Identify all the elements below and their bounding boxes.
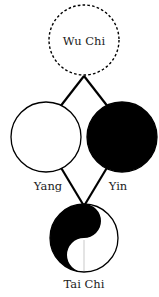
yin-circle bbox=[87, 102, 157, 172]
yang-label: Yang bbox=[33, 179, 63, 193]
yang-circle bbox=[11, 102, 81, 172]
wu-chi-label: Wu Chi bbox=[63, 34, 106, 48]
yin-label: Yin bbox=[108, 179, 128, 193]
tai-chi-label: Tai Chi bbox=[64, 277, 105, 291]
wu-chi-tai-chi-diagram: Wu Chi Yang Yin Tai Chi bbox=[0, 0, 159, 297]
node-tai-chi: Tai Chi bbox=[50, 204, 118, 291]
node-yin: Yin bbox=[87, 102, 157, 193]
edge-yang-taichi bbox=[60, 166, 84, 206]
node-wu-chi: Wu Chi bbox=[49, 5, 119, 75]
node-yang: Yang bbox=[11, 102, 81, 193]
edge-yin-taichi bbox=[84, 166, 108, 206]
